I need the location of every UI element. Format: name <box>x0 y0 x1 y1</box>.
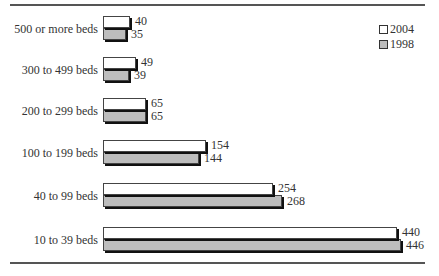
category-label: 200 to 299 beds <box>22 104 98 119</box>
bar-1998 <box>103 69 129 81</box>
value-label-1998: 144 <box>204 152 222 164</box>
bar-group: 10 to 39 beds440446 <box>0 226 439 254</box>
bar-2004 <box>103 16 130 28</box>
bar-1998 <box>103 239 401 251</box>
category-label: 100 to 199 beds <box>22 146 98 161</box>
bar-group: 200 to 299 beds6565 <box>0 97 439 125</box>
bar-2004 <box>103 57 136 69</box>
bar-1998 <box>103 28 126 40</box>
bar-2004 <box>103 227 397 239</box>
bar-group: 300 to 499 beds4939 <box>0 56 439 84</box>
value-label-1998: 65 <box>151 110 163 122</box>
bar-1998 <box>103 195 282 207</box>
value-label-1998: 39 <box>134 69 146 81</box>
value-label-2004: 40 <box>135 15 147 27</box>
bar-2004 <box>103 98 146 110</box>
value-label-2004: 440 <box>402 226 420 238</box>
value-label-2004: 154 <box>211 139 229 151</box>
bar-group: 100 to 199 beds154144 <box>0 139 439 167</box>
category-label: 300 to 499 beds <box>22 63 98 78</box>
bar-group: 40 to 99 beds254268 <box>0 182 439 210</box>
bar-2004 <box>103 183 273 195</box>
category-label: 500 or more beds <box>14 22 98 37</box>
bar-1998 <box>103 152 199 164</box>
value-label-1998: 268 <box>287 195 305 207</box>
category-label: 10 to 39 beds <box>34 233 98 248</box>
value-label-2004: 49 <box>141 56 153 68</box>
category-label: 40 to 99 beds <box>34 189 98 204</box>
bar-1998 <box>103 110 146 122</box>
bar-2004 <box>103 140 206 152</box>
value-label-2004: 254 <box>278 182 296 194</box>
bottom-rule <box>10 262 425 264</box>
bar-group: 500 or more beds4035 <box>0 15 439 43</box>
value-label-1998: 35 <box>131 28 143 40</box>
value-label-2004: 65 <box>151 97 163 109</box>
top-rule <box>10 4 425 6</box>
value-label-1998: 446 <box>406 239 424 251</box>
